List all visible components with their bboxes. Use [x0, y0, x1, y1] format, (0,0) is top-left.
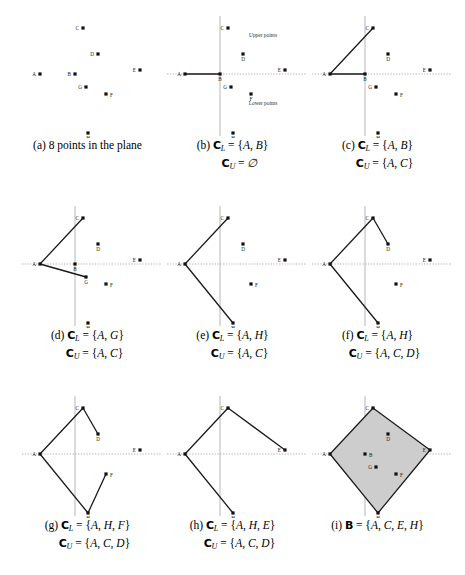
point-label-E: E: [278, 447, 281, 453]
point-label-A: A: [322, 71, 326, 77]
data-point-A: [38, 452, 41, 455]
point-label-C: C: [76, 405, 80, 411]
point-label-C: C: [366, 215, 370, 221]
lower-points-label: Lower points: [249, 100, 278, 106]
point-label-G: G: [223, 84, 227, 90]
data-point-F: [394, 282, 397, 285]
point-label-F: F: [110, 282, 113, 288]
upper-chain: [40, 408, 98, 454]
point-label-H: H: [86, 515, 90, 518]
point-label-A: A: [32, 71, 36, 77]
data-point-A: [328, 452, 331, 455]
point-label-F: F: [400, 472, 403, 478]
point-label-H: H: [86, 325, 90, 328]
panel-a: ABCDEFGH(a) 8 points in the plane: [10, 8, 165, 153]
panel-c-caption-line1: (c) CL = {A, B}: [300, 138, 455, 156]
data-point-A: [38, 262, 41, 265]
point-label-D: D: [386, 246, 390, 252]
point-label-C: C: [76, 215, 80, 221]
data-point-A: [328, 262, 331, 265]
upper-chain: [330, 28, 373, 74]
point-label-H: H: [231, 515, 235, 518]
point-label-G: G: [84, 279, 88, 285]
point-label-D: D: [241, 246, 245, 252]
panel-e: ACDEFH(e) CL = {A, H}CU = {A, C}: [155, 198, 310, 364]
panel-f-caption-line2: CU = {A, C, D}: [300, 346, 455, 364]
point-label-H: H: [376, 135, 380, 138]
data-point-C: [81, 216, 84, 219]
point-label-F: F: [400, 92, 403, 98]
data-point-F: [394, 472, 397, 475]
point-label-E: E: [423, 257, 426, 263]
point-label-C: C: [366, 25, 370, 31]
upper-chain: [330, 218, 388, 264]
data-point-C: [226, 406, 229, 409]
panel-h-caption-line2: CU = {A, C, D}: [155, 536, 310, 554]
data-point-E: [283, 68, 286, 71]
point-label-E: E: [423, 67, 426, 73]
point-label-D: D: [386, 56, 390, 62]
panel-f: ACDEFH(f) CL = {A, H}CU = {A, C, D}: [300, 198, 455, 364]
point-label-E: E: [278, 67, 281, 73]
point-label-H: H: [231, 135, 235, 138]
panel-i: ABCDEFGH(i) B = {A, C, E, H}: [300, 388, 455, 533]
point-label-F: F: [255, 282, 258, 288]
panel-c: ABCDEFGH(c) CL = {A, B}CU = {A, C}: [300, 8, 455, 174]
point-label-B: B: [218, 76, 222, 82]
hull-polygon: [330, 408, 430, 513]
panel-g-caption-line1: (g) CL = {A, H, F}: [10, 518, 165, 536]
data-point-A: [183, 452, 186, 455]
panel-b: Upper pointsLower pointsABCDEFGH(b) CL =…: [155, 8, 310, 174]
panel-h-caption: (h) CL = {A, H, E}CU = {A, C, D}: [155, 518, 310, 554]
data-point-E: [283, 448, 286, 451]
point-label-C: C: [221, 25, 225, 31]
panel-a-plot: ABCDEFGH: [10, 8, 165, 138]
data-point-C: [81, 406, 84, 409]
point-label-H: H: [231, 325, 235, 328]
point-label-D: D: [90, 51, 94, 57]
point-label-C: C: [76, 25, 80, 31]
panel-d-plot: ABCDEFGH: [10, 198, 165, 328]
point-label-A: A: [322, 451, 326, 457]
panel-c-caption: (c) CL = {A, B}CU = {A, C}: [300, 138, 455, 174]
point-label-E: E: [423, 447, 426, 453]
data-point-G: [229, 85, 232, 88]
panel-f-plot: ACDEFH: [300, 198, 455, 328]
data-point-B: [73, 72, 76, 75]
data-point-C: [371, 26, 374, 29]
panel-e-caption-line2: CU = {A, C}: [155, 346, 310, 364]
panel-g-caption: (g) CL = {A, H, F}CU = {A, C, D}: [10, 518, 165, 554]
data-point-E: [283, 258, 286, 261]
point-label-H: H: [376, 515, 380, 518]
upper-points-label: Upper points: [249, 32, 277, 38]
data-point-G: [374, 85, 377, 88]
panel-e-plot: ACDEFH: [155, 198, 310, 328]
panel-b-caption-line1: (b) CL = {A, B}: [155, 138, 310, 156]
data-point-F: [249, 282, 252, 285]
point-label-F: F: [250, 96, 253, 102]
panel-a-caption: (a) 8 points in the plane: [10, 138, 165, 153]
upper-chain: [40, 218, 83, 264]
point-label-A: A: [32, 261, 36, 267]
data-point-A: [328, 72, 331, 75]
point-label-H: H: [376, 325, 380, 328]
panel-b-plot: Upper pointsLower pointsABCDEFGH: [155, 8, 310, 138]
data-point-C: [226, 26, 229, 29]
point-label-C: C: [366, 405, 370, 411]
lower-chain: [40, 454, 106, 513]
data-point-E: [428, 448, 431, 451]
data-point-A: [183, 72, 186, 75]
point-label-F: F: [400, 282, 403, 288]
data-point-A: [38, 72, 41, 75]
point-label-A: A: [177, 451, 181, 457]
data-point-C: [371, 406, 374, 409]
panel-g-caption-line2: CU = {A, C, D}: [10, 536, 165, 554]
panel-b-caption: (b) CL = {A, B}CU = ∅: [155, 138, 310, 174]
point-label-A: A: [177, 71, 181, 77]
lower-chain: [185, 454, 233, 513]
data-point-F: [104, 282, 107, 285]
data-point-A: [183, 262, 186, 265]
point-label-E: E: [133, 447, 136, 453]
point-label-D: D: [386, 436, 390, 442]
panel-e-caption: (e) CL = {A, H}CU = {A, C}: [155, 328, 310, 364]
